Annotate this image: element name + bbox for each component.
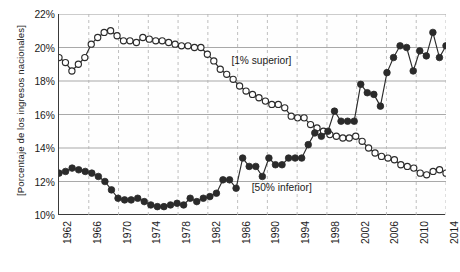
data-point-marker [82,54,88,60]
x-tick-label: 2010 [419,221,430,244]
data-point-marker [101,29,107,35]
data-point-marker [211,58,217,64]
data-point-marker [180,202,187,209]
data-point-marker [262,98,268,104]
x-tick-label: 2006 [389,221,400,244]
x-tick-label: 2014 [449,221,460,244]
x-tick-label: 1990 [270,221,281,244]
x-tick-label: 1966 [92,221,103,244]
plot-area: [1% superior] [50% inferior] [58,14,445,215]
y-tick-label: 10% [25,210,55,221]
data-point-marker [256,95,262,101]
data-point-marker [249,91,255,97]
y-tick-label: 12% [25,176,55,187]
data-point-marker [430,168,436,174]
data-point-marker [172,41,178,47]
data-point-marker [62,59,68,65]
data-point-marker [207,193,214,200]
x-tick-label: 1986 [241,221,252,244]
data-point-marker [285,155,292,162]
data-point-marker [417,170,423,176]
data-point-marker [82,168,89,175]
data-point-marker [307,121,313,127]
x-tick-label: 1982 [211,221,222,244]
data-point-marker [121,197,128,204]
data-point-marker [416,48,423,55]
data-point-marker [213,190,220,197]
data-point-marker [351,118,358,125]
data-point-marker [436,167,442,173]
data-point-marker [279,161,286,168]
data-point-marker [385,155,391,161]
x-tick-label: 1998 [330,221,341,244]
data-point-marker [69,68,75,74]
x-axis-tick-labels: 1962196619701974197819821986199019941998… [0,221,453,272]
data-point-marker [159,38,165,44]
data-point-marker [69,165,76,172]
data-point-marker [114,33,120,39]
data-point-marker [331,108,338,115]
data-point-marker [378,153,384,159]
data-point-marker [443,170,446,176]
data-point-marker [259,173,266,180]
data-point-marker [312,130,319,137]
data-point-marker [344,118,351,125]
data-point-marker [424,172,430,178]
data-point-marker [243,88,249,94]
series-line [59,31,446,175]
data-point-marker [430,29,437,36]
data-point-marker [353,133,359,139]
data-point-marker [133,39,139,45]
data-point-marker [357,81,364,88]
y-tick-label: 22% [25,9,55,20]
data-point-marker [340,135,346,141]
data-point-marker [75,166,82,173]
x-tick-label: 1974 [151,221,162,244]
data-point-marker [88,41,94,47]
data-point-marker [95,34,101,40]
data-point-marker [108,28,114,34]
data-point-marker [397,43,404,50]
data-point-marker [391,157,397,163]
data-point-marker [187,195,194,202]
data-point-marker [154,203,161,210]
data-point-marker [372,150,378,156]
data-point-marker [325,128,332,135]
data-point-marker [246,163,253,170]
data-point-marker [377,103,384,110]
data-point-marker [443,43,446,50]
data-point-marker [220,177,227,184]
data-point-marker [288,113,294,119]
data-point-marker [198,44,204,50]
data-point-marker [266,155,273,162]
data-point-marker [191,44,197,50]
data-point-marker [128,197,135,204]
data-point-marker [237,83,243,89]
data-point-marker [120,38,126,44]
data-point-marker [359,138,365,144]
data-point-marker [141,198,148,205]
data-point-marker [217,66,223,72]
data-point-marker [410,68,417,75]
data-point-marker [390,54,397,61]
data-point-marker [404,163,410,169]
data-point-marker [226,177,233,184]
x-tick-label: 1962 [62,221,73,244]
data-point-marker [224,71,230,77]
series-label-bottom-50-percent: [50% inferior] [252,182,312,193]
x-tick-label: 2002 [360,221,371,244]
data-point-marker [185,43,191,49]
data-point-marker [371,91,378,98]
data-point-marker [292,155,299,162]
data-point-marker [200,195,207,202]
data-point-marker [95,173,102,180]
data-point-marker [275,101,281,107]
data-point-marker [301,115,307,121]
data-point-marker [75,61,81,67]
data-point-marker [366,145,372,151]
data-point-marker [346,135,352,141]
data-point-marker [364,89,371,96]
data-point-marker [269,101,275,107]
y-tick-label: 18% [25,76,55,87]
